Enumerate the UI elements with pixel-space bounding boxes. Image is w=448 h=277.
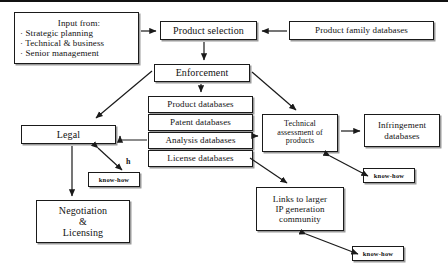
node-product-family-databases: Product family databases [289,21,434,40]
infringement-line-2: databases [384,131,419,141]
diagram-canvas: Input from: · Strategic planning · Techn… [0,0,448,277]
links-community-line-3: community [279,214,321,224]
links-community-line-1: Links to larger [273,194,327,204]
edge-links-community-knowhow [306,234,358,254]
node-license-databases: License databases [148,150,253,167]
node-legal: Legal [21,125,116,144]
edge-legal-knowhow [98,148,122,170]
node-negotiation-licensing: Negotiation & Licensing [36,200,130,243]
links-community-line-2: IP generation [275,204,324,214]
node-analysis-databases: Analysis databases [148,132,253,149]
negotiation-line-1: Negotiation [59,205,107,216]
node-product-selection: Product selection [160,21,257,40]
negotiation-line-3: Licensing [63,227,103,238]
node-enforcement: Enforcement [154,64,250,82]
node-infringement-databases: Infringement databases [364,114,440,147]
node-know-how-right: know-how [363,168,415,183]
technical-assessment-line-3: products [286,137,314,146]
node-know-how-left: know-how [88,172,140,187]
node-input-from: Input from: · Strategic planning · Techn… [14,12,139,64]
negotiation-line-2: & [79,216,87,227]
node-know-how-bottom: know-how [352,246,404,261]
know-how-h-label: h [126,157,130,166]
node-links-community: Links to larger IP generation community [256,187,344,231]
input-bullet-3: · Senior management [20,48,99,58]
edge-databases-to-legal [120,136,147,140]
input-heading: Input from: [58,18,100,28]
input-bullet-1: · Strategic planning [20,28,93,38]
edge-enforcement-to-technical-assessment [252,72,296,110]
input-bullet-2: · Technical & business [20,38,104,48]
edge-license-to-links-community [250,158,287,183]
page-top-rule [0,0,448,2]
edge-enforcement-to-legal [96,71,152,118]
infringement-line-1: Infringement [378,120,426,130]
node-product-databases: Product databases [148,96,253,113]
node-technical-assessment: Technical assessment of products [262,114,338,152]
node-patent-databases: Patent databases [148,114,253,131]
